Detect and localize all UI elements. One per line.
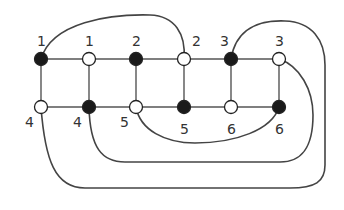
arc-5-white-to-6-black <box>136 107 279 143</box>
node-label-t3: 2 <box>132 33 141 49</box>
grid-edges <box>41 59 279 107</box>
node-label-t5: 3 <box>220 33 229 49</box>
node-label-b5: 6 <box>227 121 236 137</box>
black-node-1 <box>35 53 48 66</box>
node-label-b1: 4 <box>25 114 34 130</box>
black-node-6 <box>273 101 286 114</box>
node-labels: 112233445566 <box>25 33 284 137</box>
node-label-b6: 6 <box>275 121 284 137</box>
graph-nodes <box>35 53 286 114</box>
black-node-2 <box>130 53 143 66</box>
node-label-t6: 3 <box>275 33 284 49</box>
node-label-t1: 1 <box>37 33 46 49</box>
arc-1-black-to-2-white <box>41 15 184 59</box>
node-label-t2: 1 <box>85 33 94 49</box>
white-node-3 <box>273 53 286 66</box>
node-label-b3: 5 <box>120 114 129 130</box>
node-label-b4: 5 <box>180 121 189 137</box>
white-node-2 <box>178 53 191 66</box>
node-label-b2: 4 <box>73 114 82 130</box>
node-label-t4: 2 <box>192 33 201 49</box>
white-node-6 <box>225 101 238 114</box>
white-node-5 <box>130 101 143 114</box>
bipartite-graph-diagram: 112233445566 <box>0 0 344 210</box>
white-node-4 <box>35 101 48 114</box>
white-node-1 <box>83 53 96 66</box>
black-node-3 <box>225 53 238 66</box>
black-node-5 <box>178 101 191 114</box>
black-node-4 <box>83 101 96 114</box>
